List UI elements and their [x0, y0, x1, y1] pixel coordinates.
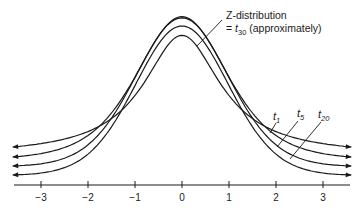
z-distribution-label: Z-distribution	[226, 9, 287, 21]
t5-leader-line	[277, 121, 298, 147]
curve-t5	[13, 17, 351, 157]
curve-z-distribution	[13, 26, 351, 175]
x-tick-label: −1	[129, 192, 141, 203]
x-tick-label: 3	[320, 192, 326, 203]
x-tick-label: 2	[273, 192, 279, 203]
t20-label: t20	[318, 108, 330, 123]
x-tick-label: −3	[35, 192, 47, 203]
x-tick-label: 1	[226, 192, 232, 203]
t5-label: t5	[297, 107, 305, 122]
distribution-curves	[13, 17, 351, 175]
curve-t1	[13, 35, 351, 147]
x-axis-tick-labels: −3−2−10123	[35, 192, 326, 203]
t-distribution-chart: −3−2−10123 Z-distribution = t30 (approxi…	[0, 0, 362, 211]
t1-label: t1	[273, 110, 280, 125]
t20-leader-line	[290, 122, 321, 159]
z-approx-label: = t30 (approximately)	[226, 22, 322, 37]
x-tick-label: −2	[82, 192, 94, 203]
x-tick-label: 0	[179, 192, 185, 203]
curve-t20	[13, 18, 351, 166]
